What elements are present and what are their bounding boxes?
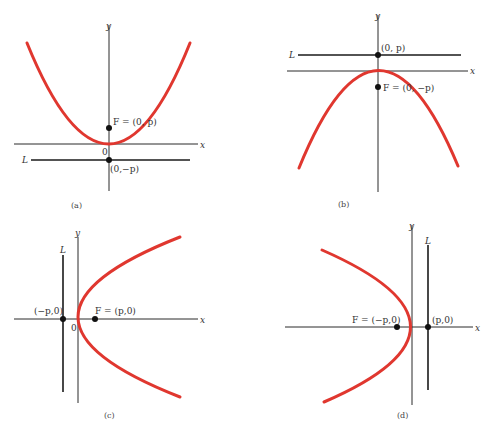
directrix-point-label: (0, p) <box>381 43 405 53</box>
directrix-point <box>425 324 431 330</box>
panel-caption: (d) <box>397 411 408 420</box>
focus-label: F = (p,0) <box>95 306 136 316</box>
directrix-point <box>60 316 66 322</box>
panel-caption: (a) <box>71 201 82 210</box>
directrix-point-label: (p,0) <box>432 315 453 325</box>
focus-label: F = (−p,0) <box>352 315 400 325</box>
directrix-point-label: (−p,0) <box>34 306 63 316</box>
x-axis-label: x <box>200 315 205 325</box>
panel-a: y x 0 L F = (0, p) (0,−p) (a) <box>14 21 205 210</box>
parabola-figure: y x 0 L F = (0, p) (0,−p) (a) y x L (0, … <box>0 0 490 429</box>
x-axis-label: x <box>475 323 480 333</box>
y-axis-label: y <box>408 221 415 231</box>
origin-label: 0 <box>71 323 77 333</box>
panel-b: y x L (0, p) F = (0, −p) (b) <box>287 11 475 209</box>
directrix-point <box>106 157 112 163</box>
x-axis-label: x <box>470 66 475 76</box>
focus-point <box>92 316 98 322</box>
origin-label: 0 <box>102 147 108 157</box>
panel-caption: (c) <box>104 411 115 420</box>
x-axis-label: x <box>200 140 205 150</box>
y-axis-label: y <box>374 11 381 21</box>
focus-label: F = (0, p) <box>113 117 157 127</box>
y-axis-label: y <box>105 21 112 31</box>
panel-d: y x L F = (−p,0) (p,0) (d) <box>285 221 480 420</box>
focus-label: F = (0, −p) <box>383 83 434 93</box>
focus-point <box>375 84 381 90</box>
directrix-point-label: (0,−p) <box>110 164 139 174</box>
directrix-label: L <box>21 155 28 165</box>
focus-point <box>106 125 112 131</box>
y-axis-label: y <box>74 228 81 238</box>
panel-caption: (b) <box>338 200 349 209</box>
directrix-label: L <box>288 50 295 60</box>
directrix-label: L <box>59 245 66 255</box>
panel-c: y x L 0 (−p,0) F = (p,0) (c) <box>14 228 205 420</box>
directrix-label: L <box>424 236 431 246</box>
